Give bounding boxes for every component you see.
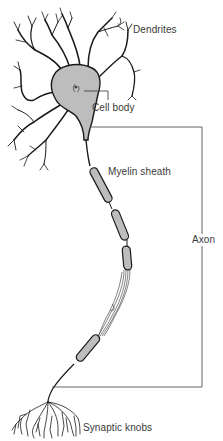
axon-label: Axon bbox=[192, 234, 215, 246]
neuron-diagram: Dendrites Cell body Myelin sheath Axon S… bbox=[0, 0, 223, 441]
neuron-illustration bbox=[0, 0, 223, 441]
axon-initial-segment bbox=[86, 140, 90, 166]
synaptic-knobs-drawing bbox=[12, 402, 80, 438]
cutaway-myelin-drawing bbox=[98, 270, 130, 338]
myelin-sheath-label: Myelin sheath bbox=[108, 167, 171, 177]
myelin-sheath-drawing bbox=[75, 166, 132, 362]
axon-terminal-segment bbox=[48, 364, 74, 402]
dendrites-label: Dendrites bbox=[133, 25, 177, 35]
synaptic-knobs-label: Synaptic knobs bbox=[83, 423, 152, 433]
cell-body-label: Cell body bbox=[92, 103, 135, 113]
